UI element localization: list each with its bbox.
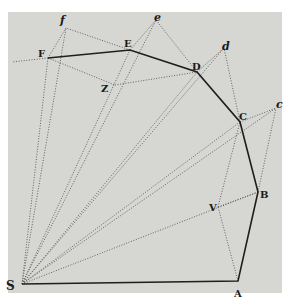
label-e: e [154,11,161,24]
label-D: D [192,61,201,72]
label-E: E [124,38,132,49]
orbit-polygon-diagram: S A B C D E F V Z c d e f [0,0,291,301]
label-d: d [222,40,230,53]
label-c: c [276,98,283,111]
label-C: C [239,111,247,122]
label-B: B [260,189,268,200]
label-F: F [38,48,45,59]
label-A: A [233,288,242,299]
label-S: S [6,279,15,293]
label-Z: Z [101,83,108,94]
label-V: V [208,202,217,213]
